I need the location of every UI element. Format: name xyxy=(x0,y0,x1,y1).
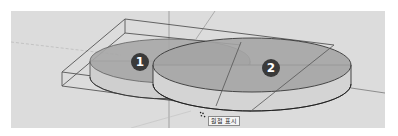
3d-model-viewport[interactable]: 1 2 원점 표시 xyxy=(11,11,385,128)
inference-tooltip: 원점 표시 xyxy=(208,116,240,126)
object-2-label: 2 xyxy=(267,61,275,75)
scene-canvas xyxy=(11,11,385,128)
green-axis-line xyxy=(196,11,215,39)
inference-cursor-icon xyxy=(199,111,207,119)
object-2-marker: 2 xyxy=(262,59,280,77)
object-1-marker: 1 xyxy=(131,53,149,71)
disc-2 xyxy=(153,38,351,111)
object-1-label: 1 xyxy=(136,55,144,69)
guide-line xyxy=(131,111,191,128)
inference-tooltip-text: 원점 표시 xyxy=(211,117,237,124)
